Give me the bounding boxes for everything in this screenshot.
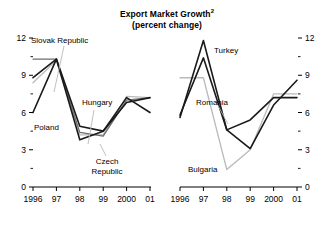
x-tick-label: 98 (222, 194, 232, 204)
panel-right: 1996979899200001129630 Turkey Romania Bu… (168, 32, 332, 225)
figure-title-text: Export Market Growth (120, 9, 211, 19)
x-tick-label: 99 (98, 194, 108, 204)
annotation-slovak-republic: Slovak Republic (31, 36, 88, 46)
annotation-leader-0 (54, 46, 64, 92)
y-tick-label: 12 (17, 33, 27, 43)
y-tick-label: 9 (305, 70, 310, 80)
series-line-bulgaria (180, 78, 297, 170)
x-tick-label: 2000 (264, 194, 283, 204)
x-tick-label: 97 (52, 194, 62, 204)
annotation-czech-republic-line2: Republic (84, 167, 130, 177)
annotation-bulgaria: Bulgaria (188, 165, 217, 175)
figure-subtitle: (percent change) (0, 20, 334, 31)
y-tick-label: 0 (305, 182, 310, 192)
series-line-hungary (33, 59, 150, 131)
annotation-leader-2 (100, 144, 106, 156)
x-tick-label: 99 (245, 194, 255, 204)
figure-title-footnote-marker: 2 (211, 8, 214, 14)
x-tick-label: 01 (145, 194, 155, 204)
chart-figure: Export Market Growth2 (percent change) 1… (0, 0, 334, 225)
annotation-romania: Romania (196, 98, 228, 108)
series-line-turkey (180, 40, 297, 129)
x-tick-label: 01 (292, 194, 302, 204)
x-tick-label: 1996 (24, 194, 43, 204)
annotation-hungary: Hungary (82, 98, 112, 108)
figure-title: Export Market Growth2 (percent change) (0, 6, 334, 31)
y-tick-label: 12 (305, 33, 315, 43)
x-tick-label: 98 (75, 194, 85, 204)
x-tick-label: 97 (199, 194, 209, 204)
y-tick-label: 9 (21, 70, 26, 80)
y-tick-label: 3 (305, 145, 310, 155)
panel-right-plot: 1996979899200001129630 (168, 32, 332, 225)
y-tick-label: 0 (21, 182, 26, 192)
annotation-czech-republic-line1: Czech (84, 157, 130, 167)
annotation-poland: Poland (34, 123, 59, 133)
annotation-czech-republic: Czech Republic (84, 157, 130, 176)
panel-left: 1996979899200001129630 Slovak Republic H… (2, 32, 166, 225)
y-tick-label: 6 (21, 108, 26, 118)
x-tick-label: 1996 (171, 194, 190, 204)
annotation-turkey: Turkey (214, 46, 238, 56)
y-tick-label: 6 (305, 108, 310, 118)
panel-left-plot: 1996979899200001129630 (2, 32, 166, 225)
figure-title-main: Export Market Growth2 (0, 6, 334, 20)
annotation-leader-1 (88, 110, 94, 144)
x-tick-label: 2000 (117, 194, 136, 204)
y-tick-label: 3 (21, 145, 26, 155)
